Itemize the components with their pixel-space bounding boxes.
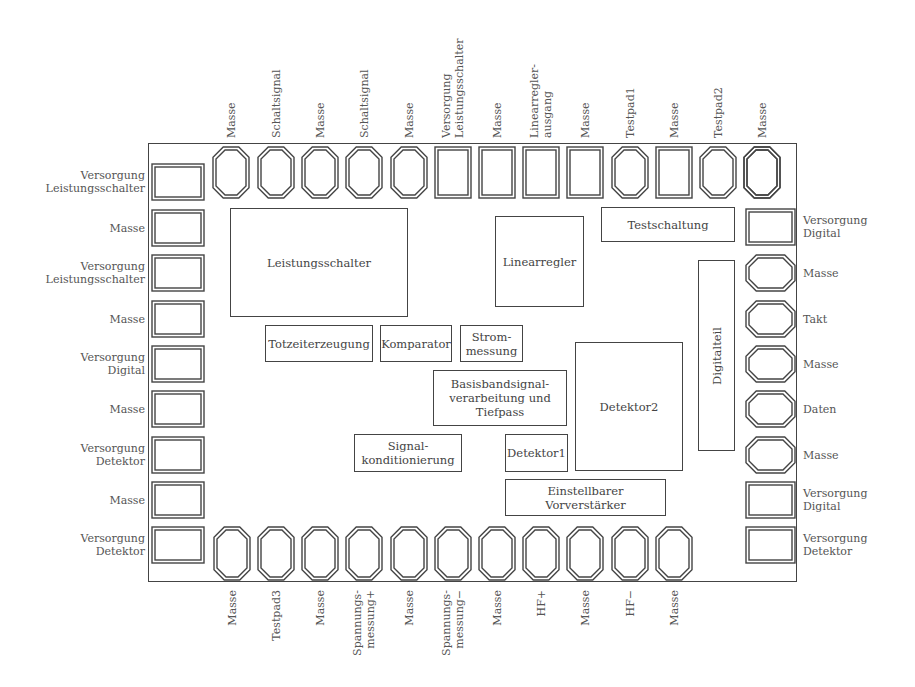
- pad-label-bottom-10: HF−: [624, 590, 637, 616]
- pad-label-top-10: Testpad1: [624, 87, 637, 138]
- block-testschaltung: Testschaltung: [601, 207, 735, 242]
- pad-label-top-4: Schaltsignal: [358, 69, 371, 138]
- pad-bottom-2: [257, 526, 295, 581]
- pad-label-left-5: Versorgung Digital: [81, 351, 145, 377]
- block-detektor1: Detektor1: [505, 434, 568, 472]
- pad-bottom-7: [478, 526, 516, 581]
- pad-left-8: [151, 481, 205, 519]
- pad-label-left-2: Masse: [109, 222, 145, 235]
- pad-label-top-9: Masse: [579, 102, 592, 138]
- pad-top-9: [566, 146, 604, 199]
- pad-label-bottom-4: Spannungs- messung+: [351, 590, 377, 656]
- block-strommessung: Strom- messung: [460, 325, 523, 362]
- pad-label-right-3: Masse: [803, 267, 839, 280]
- pad-top-11: [655, 146, 693, 199]
- pad-label-top-12: Testpad2: [712, 87, 725, 138]
- pad-bottom-8: [522, 526, 560, 581]
- pad-bottom-11: [655, 526, 693, 581]
- pad-right-1: [743, 146, 781, 199]
- block-label: Totzeiterzeugung: [268, 337, 370, 351]
- pad-label-top-3: Masse: [314, 102, 327, 138]
- pad-label-bottom-6: Spannungs- messung−: [440, 590, 466, 656]
- block-detektor2: Detektor2: [575, 342, 683, 471]
- pad-label-bottom-5: Masse: [403, 590, 416, 626]
- block-label: Testschaltung: [627, 218, 708, 232]
- block-linearregler: Linearregler: [495, 216, 584, 307]
- pad-label-left-8: Masse: [109, 494, 145, 507]
- pad-label-top-8: Linearregler- ausgang: [528, 64, 554, 138]
- pad-label-right-8: Versorgung Digital: [803, 487, 867, 513]
- pad-label-top-11: Masse: [668, 102, 681, 138]
- pad-bottom-5: [390, 526, 428, 581]
- pad-top-5: [390, 146, 428, 199]
- block-label: Strom- messung: [466, 330, 518, 358]
- block-signalkonditionierung: Signal- konditionierung: [354, 434, 462, 472]
- pad-right-8: [745, 481, 796, 519]
- pad-label-right-5: Masse: [803, 358, 839, 371]
- pad-label-right-7: Masse: [803, 449, 839, 462]
- pad-label-left-6: Masse: [109, 403, 145, 416]
- pad-left-2: [151, 209, 205, 247]
- block-basisband: Basisbandsignal- verarbeitung und Tiefpa…: [433, 370, 567, 426]
- pad-bottom-9: [566, 526, 604, 581]
- pad-top-1: [212, 146, 250, 199]
- pad-label-left-3: Versorgung Leistungsschalter: [46, 260, 145, 286]
- block-totzeiterzeugung: Totzeiterzeugung: [265, 325, 373, 362]
- pad-left-6: [151, 390, 205, 428]
- pad-label-top-7: Masse: [491, 102, 504, 138]
- block-label: Signal- konditionierung: [361, 439, 454, 467]
- pad-top-4: [345, 146, 383, 199]
- pad-left-9: [151, 526, 205, 564]
- pad-right-5: [745, 345, 796, 383]
- pad-bottom-10: [611, 526, 649, 581]
- pad-label-right-4: Takt: [803, 313, 827, 326]
- pad-label-bottom-11: Masse: [668, 590, 681, 626]
- pad-top-7: [478, 146, 516, 199]
- block-label: Linearregler: [503, 255, 577, 269]
- pad-bottom-4: [345, 526, 383, 581]
- block-digitalteil: Digitalteil: [698, 260, 735, 451]
- pad-label-top-13: Masse: [756, 102, 769, 138]
- pad-right-6: [745, 390, 796, 428]
- block-label: Detektor2: [600, 400, 659, 414]
- pad-label-left-1: Versorgung Leistungsschalter: [46, 169, 145, 195]
- pad-top-3: [301, 146, 339, 199]
- pad-left-3: [151, 254, 205, 292]
- pad-label-bottom-2: Testpad3: [270, 590, 283, 641]
- pad-top-8: [522, 146, 560, 199]
- pad-right-7: [745, 436, 796, 474]
- pad-bottom-6: [434, 526, 472, 581]
- pad-left-4: [151, 300, 205, 338]
- chip-layout-diagram: LeistungsschalterLinearreglerTestschaltu…: [0, 0, 915, 687]
- pad-top-6: [434, 146, 472, 199]
- block-vorverstaerker: Einstellbarer Vorverstärker: [505, 479, 666, 516]
- pad-label-bottom-1: Masse: [226, 590, 239, 626]
- block-label: Leistungsschalter: [267, 256, 371, 270]
- pad-top-2: [257, 146, 295, 199]
- pad-label-right-2: Versorgung Digital: [803, 214, 867, 240]
- pad-right-2: [745, 208, 796, 246]
- pad-label-right-9: Versorgung Detektor: [803, 532, 867, 558]
- pad-label-bottom-9: Masse: [579, 590, 592, 626]
- block-leistungsschalter: Leistungsschalter: [230, 208, 408, 317]
- pad-label-left-9: Versorgung Detektor: [81, 532, 145, 558]
- pad-right-3: [745, 254, 796, 292]
- block-label: Basisbandsignal- verarbeitung und Tiefpa…: [449, 377, 551, 419]
- pad-label-top-2: Schaltsignal: [270, 69, 283, 138]
- pad-left-1: [151, 163, 205, 201]
- pad-right-9: [745, 526, 796, 564]
- pad-label-right-6: Daten: [803, 403, 836, 416]
- pad-label-bottom-8: HF+: [535, 590, 548, 616]
- pad-label-top-1: Masse: [225, 102, 238, 138]
- pad-left-7: [151, 436, 205, 474]
- pad-top-12: [699, 146, 737, 199]
- block-label: Einstellbarer Vorverstärker: [506, 484, 665, 512]
- pad-right-4: [745, 300, 796, 338]
- pad-label-bottom-7: Masse: [491, 590, 504, 626]
- pad-top-10: [611, 146, 649, 199]
- pad-label-left-4: Masse: [109, 313, 145, 326]
- block-label: Komparator: [381, 337, 451, 351]
- pad-bottom-3: [301, 526, 339, 581]
- pad-left-5: [151, 345, 205, 383]
- block-label: Detektor1: [507, 446, 566, 460]
